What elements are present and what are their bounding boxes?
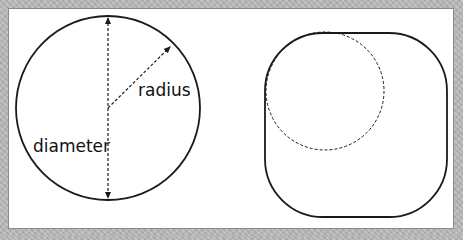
rounded-square-diagram: [265, 32, 447, 217]
radius-label: radius: [138, 80, 191, 100]
figure-svg: radius diameter: [0, 0, 463, 236]
rounded-square: [265, 33, 447, 217]
corner-radius-circle: [266, 32, 384, 150]
circle-diagram: radius diameter: [16, 16, 200, 200]
diameter-label: diameter: [33, 136, 110, 156]
